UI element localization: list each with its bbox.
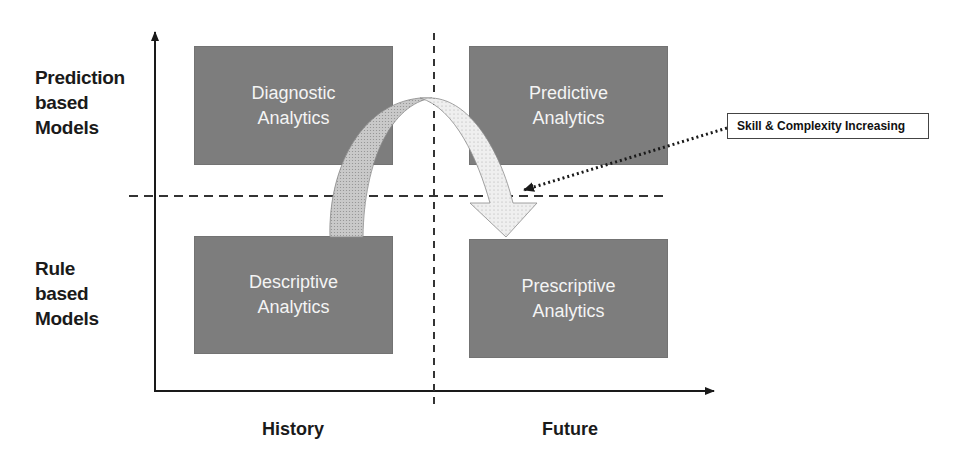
label-line: Models [35,115,125,140]
label-line: Prediction [35,65,125,90]
analytics-quadrant-diagram: Diagnostic Analytics Predictive Analytic… [0,0,958,466]
skill-complexity-callout: Skill & Complexity Increasing [727,113,929,139]
label-line: based [35,281,99,306]
label-line: based [35,90,125,115]
prediction-based-models-label: Prediction based Models [35,65,125,140]
skill-arc-arrow-icon [330,98,537,237]
overlay-arrows [0,0,958,466]
label-line: Rule [35,256,99,281]
future-label: Future [542,419,598,440]
callout-pointer-arrow [524,128,727,190]
rule-based-models-label: Rule based Models [35,256,99,331]
label-line: Models [35,306,99,331]
callout-text: Skill & Complexity Increasing [737,119,905,133]
history-label: History [262,419,324,440]
